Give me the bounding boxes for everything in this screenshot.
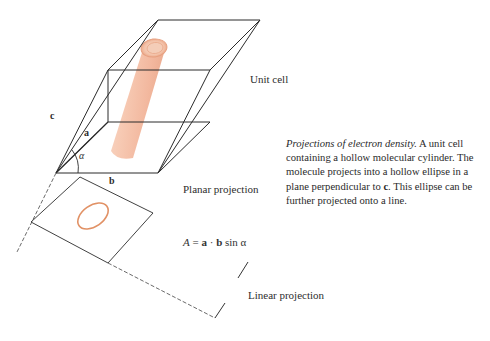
- formula-sin: sin: [222, 236, 240, 248]
- linear-projection-line: [215, 262, 248, 318]
- planar-projection-plane: [31, 177, 153, 263]
- projected-hollow-ellipse: [73, 198, 113, 235]
- unit-cell-top-face: [108, 20, 260, 70]
- formula-dot: ·: [207, 236, 216, 248]
- label-planar-projection: Planar projection: [183, 183, 258, 195]
- area-formula: A = a · b sin α: [183, 236, 246, 248]
- label-vector-c: c: [50, 110, 54, 121]
- label-linear-projection: Linear projection: [248, 289, 324, 301]
- figure-caption: Projections of electron density. A unit …: [286, 137, 486, 208]
- formula-equals: =: [190, 236, 202, 248]
- hollow-cylinder: [111, 37, 168, 158]
- formula-alpha: α: [241, 236, 247, 248]
- cylinder-body: [111, 46, 164, 159]
- label-vector-a: a: [84, 127, 89, 138]
- label-unit-cell: Unit cell: [250, 73, 288, 85]
- caption-title: Projections of electron density.: [286, 138, 417, 149]
- label-angle-alpha: α: [79, 150, 84, 161]
- formula-area-symbol: A: [183, 236, 190, 248]
- label-vector-b: b: [109, 175, 115, 186]
- edge-a: [56, 122, 108, 173]
